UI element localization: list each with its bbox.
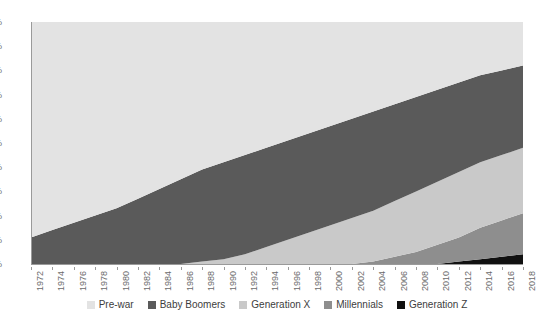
x-tick-label: 1982 — [142, 271, 152, 291]
y-tick-label: 40% — [0, 162, 2, 172]
legend-label: Pre-war — [99, 300, 134, 310]
legend-label: Generation X — [251, 300, 310, 310]
x-tick-mark — [202, 267, 203, 270]
legend-swatch-icon — [397, 301, 405, 309]
x-tick-mark — [95, 267, 96, 270]
legend-label: Baby Boomers — [160, 300, 226, 310]
x-tick-label: 1986 — [185, 271, 195, 291]
x-tick-label: 2014 — [484, 271, 494, 291]
x-tick-mark — [266, 267, 267, 270]
x-tick-mark — [330, 267, 331, 270]
y-axis-line — [31, 22, 32, 265]
x-tick-label: 2018 — [527, 271, 537, 291]
x-tick-mark — [52, 267, 53, 270]
x-tick-label: 1998 — [313, 271, 323, 291]
x-tick-mark — [373, 267, 374, 270]
legend-swatch-icon — [148, 301, 156, 309]
legend-item-generation-x[interactable]: Generation X — [239, 300, 310, 310]
x-tick-label: 1990 — [228, 271, 238, 291]
x-tick-label: 1992 — [249, 271, 259, 291]
y-tick-label: 10% — [0, 235, 2, 245]
y-tick-label: 50% — [0, 138, 2, 148]
legend-item-millennials[interactable]: Millennials — [324, 300, 383, 310]
legend-item-generation-z[interactable]: Generation Z — [397, 300, 467, 310]
y-tick-label: 90% — [0, 41, 2, 51]
area-bands — [31, 22, 523, 264]
x-tick-label: 1978 — [99, 271, 109, 291]
x-tick-mark — [309, 267, 310, 270]
x-tick-label: 2006 — [399, 271, 409, 291]
x-tick-label: 1994 — [270, 271, 280, 291]
legend-swatch-icon — [239, 301, 247, 309]
x-tick-label: 1974 — [56, 271, 66, 291]
x-tick-mark — [181, 267, 182, 270]
x-tick-mark — [416, 267, 417, 270]
x-tick-label: 2004 — [377, 271, 387, 291]
x-tick-label: 1996 — [292, 271, 302, 291]
x-tick-mark — [480, 267, 481, 270]
y-tick-label: 20% — [0, 211, 2, 221]
x-tick-label: 2010 — [441, 271, 451, 291]
x-tick-mark — [117, 267, 118, 270]
legend-item-baby-boomers[interactable]: Baby Boomers — [148, 300, 226, 310]
plot-area — [31, 22, 523, 264]
x-tick-mark — [224, 267, 225, 270]
x-tick-mark — [138, 267, 139, 270]
x-tick-mark — [352, 267, 353, 270]
x-tick-mark — [459, 267, 460, 270]
legend-swatch-icon — [324, 301, 332, 309]
legend-item-pre-war[interactable]: Pre-war — [87, 300, 134, 310]
x-tick-label: 2000 — [334, 271, 344, 291]
x-tick-label: 1988 — [206, 271, 216, 291]
y-tick-label: 60% — [0, 114, 2, 124]
x-tick-mark — [502, 267, 503, 270]
stacked-area-chart: 0%10%20%30%40%50%60%70%80%90%100% 197219… — [0, 0, 554, 334]
legend-label: Millennials — [336, 300, 383, 310]
y-tick-label: 100% — [0, 17, 2, 27]
x-tick-label: 2012 — [463, 271, 473, 291]
x-tick-label: 2016 — [506, 271, 516, 291]
x-tick-mark — [288, 267, 289, 270]
y-tick-label: 70% — [0, 90, 2, 100]
x-tick-mark — [395, 267, 396, 270]
x-tick-label: 2008 — [420, 271, 430, 291]
x-tick-label: 1984 — [163, 271, 173, 291]
x-tick-mark — [437, 267, 438, 270]
x-tick-label: 1976 — [78, 271, 88, 291]
y-tick-label: 80% — [0, 65, 2, 75]
x-tick-mark — [74, 267, 75, 270]
x-tick-mark — [523, 267, 524, 270]
y-tick-label: 30% — [0, 186, 2, 196]
chart-legend: Pre-warBaby BoomersGeneration XMillennia… — [0, 300, 554, 310]
x-tick-mark — [159, 267, 160, 270]
legend-swatch-icon — [87, 301, 95, 309]
x-tick-label: 1980 — [121, 271, 131, 291]
x-tick-label: 2002 — [356, 271, 366, 291]
legend-label: Generation Z — [409, 300, 467, 310]
x-tick-mark — [31, 267, 32, 270]
x-tick-mark — [245, 267, 246, 270]
x-tick-label: 1972 — [35, 271, 45, 291]
